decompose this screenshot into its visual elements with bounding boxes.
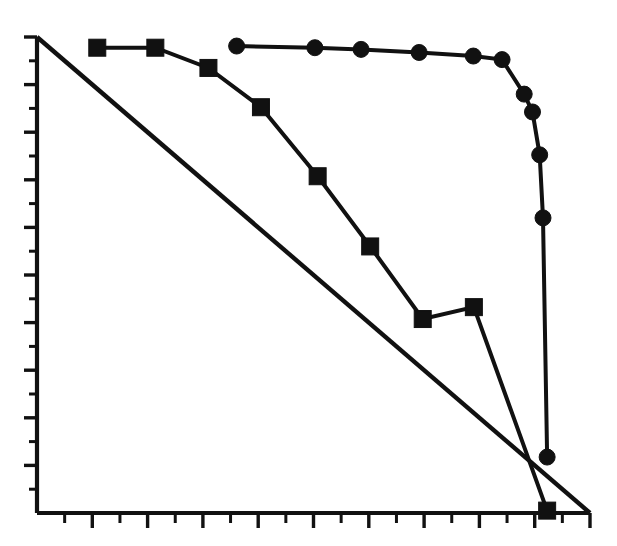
data-point-square — [362, 238, 379, 255]
y-axis — [24, 37, 37, 513]
chart-figure — [0, 0, 617, 546]
data-point-circle — [307, 40, 323, 56]
data-point-circle — [539, 449, 555, 465]
series-square-series — [89, 39, 556, 519]
data-point-circle — [465, 48, 481, 64]
data-point-square — [147, 39, 164, 56]
data-point-square — [89, 39, 106, 56]
data-point-square — [200, 59, 217, 76]
data-point-circle — [535, 210, 551, 226]
data-point-square — [309, 168, 326, 185]
x-axis-ticks — [65, 513, 590, 528]
series-line-square-series — [97, 48, 547, 511]
data-point-circle — [516, 86, 532, 102]
data-point-circle — [353, 41, 369, 57]
data-point-circle — [524, 104, 540, 120]
data-series-layer — [37, 37, 590, 519]
data-point-square — [414, 311, 431, 328]
data-point-circle — [494, 52, 510, 68]
data-point-circle — [532, 147, 548, 163]
data-point-square — [465, 299, 482, 316]
series-line-diagonal-reference-line — [37, 37, 590, 513]
data-point-circle — [411, 44, 427, 60]
x-axis — [37, 513, 590, 528]
data-point-circle — [229, 38, 245, 54]
data-point-square — [539, 502, 556, 519]
data-point-square — [252, 99, 269, 116]
series-diagonal-reference-line — [37, 37, 590, 513]
chart-plot-area — [0, 0, 617, 546]
